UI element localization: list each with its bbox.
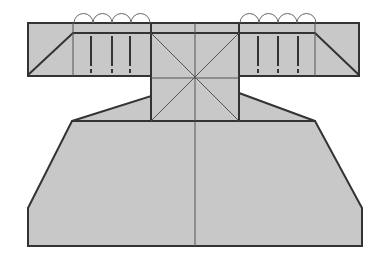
arcs-left: [74, 14, 150, 23]
structure-diagram: [0, 0, 386, 258]
arcs-right: [240, 14, 316, 23]
center-block: [151, 23, 239, 121]
base: [28, 121, 362, 246]
